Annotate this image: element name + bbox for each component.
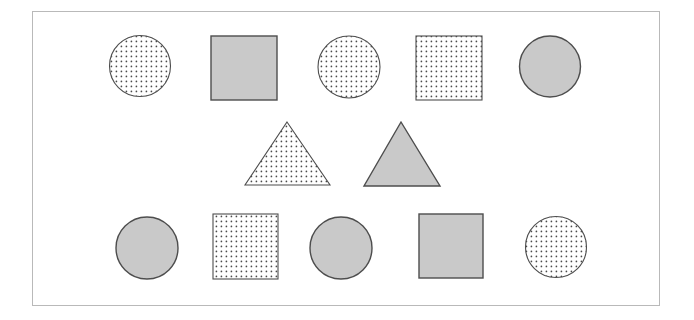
shape-circle-dotted-12 (526, 217, 587, 278)
middle-row (245, 122, 440, 186)
shape-layer (0, 0, 694, 320)
shape-circle-solid-5 (520, 36, 581, 97)
shape-circle-solid-8 (116, 217, 178, 279)
shape-circle-dotted-3 (318, 36, 380, 98)
top-row (110, 36, 581, 101)
shape-square-dotted-9 (213, 214, 278, 279)
bottom-row (116, 214, 587, 279)
shape-square-solid-11 (419, 214, 483, 278)
figure-canvas (0, 0, 694, 320)
shape-triangle-solid-7 (364, 122, 440, 186)
shape-triangle-dotted-6 (245, 122, 330, 185)
shape-square-solid-2 (211, 36, 277, 100)
shape-circle-dotted-1 (110, 36, 171, 97)
shape-circle-solid-10 (310, 217, 372, 279)
shape-square-dotted-4 (416, 36, 482, 100)
